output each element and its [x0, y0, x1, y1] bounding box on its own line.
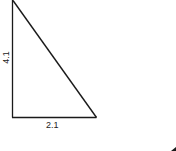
- base-side-length-label: 2.1: [46, 121, 59, 130]
- right-triangle-diagram: [0, 0, 176, 151]
- hypotenuse: [13, 1, 97, 118]
- vertical-side-length-label: 4.1: [2, 51, 11, 64]
